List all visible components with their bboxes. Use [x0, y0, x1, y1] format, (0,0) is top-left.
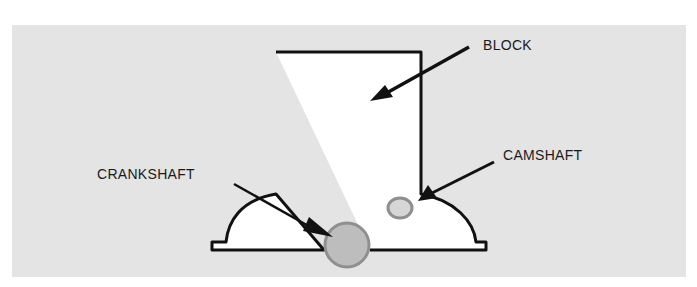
label-block: BLOCK — [483, 37, 532, 53]
engine-diagram — [0, 0, 697, 287]
camshaft-circle — [388, 198, 412, 218]
label-crankshaft: CRANKSHAFT — [97, 166, 195, 182]
camshaft-arrow — [418, 162, 494, 201]
crankshaft-circle — [325, 223, 369, 267]
label-camshaft: CAMSHAFT — [503, 147, 582, 163]
engine-block — [212, 52, 486, 250]
